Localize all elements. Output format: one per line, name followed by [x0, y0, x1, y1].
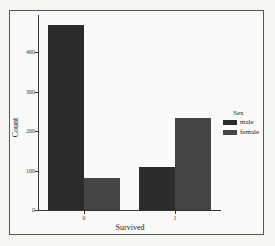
bar-male-survived-0	[48, 25, 84, 210]
x-tick-label: 1	[170, 215, 180, 221]
legend-label-female: female	[240, 128, 259, 136]
y-tick-label: 300	[15, 89, 35, 95]
legend-label-male: male	[240, 118, 254, 126]
bar-male-survived-1	[139, 167, 175, 210]
y-axis-line	[38, 15, 39, 211]
y-tick	[35, 52, 38, 53]
legend-swatch-female	[223, 130, 237, 135]
x-tick-label: 0	[79, 215, 89, 221]
legend-item-female: female	[223, 128, 259, 136]
y-tick-label: 0	[15, 207, 35, 213]
y-tick	[35, 210, 38, 211]
legend-swatch-male	[223, 120, 237, 125]
x-tick	[175, 211, 176, 214]
y-axis-label: Count	[11, 113, 20, 143]
y-tick-label: 100	[15, 168, 35, 174]
y-tick-label: 400	[15, 49, 35, 55]
x-tick	[84, 211, 85, 214]
bar-female-survived-0	[84, 178, 120, 210]
y-tick	[35, 131, 38, 132]
y-tick	[35, 171, 38, 172]
legend-item-male: male	[223, 118, 254, 126]
legend-title: Sex	[233, 109, 244, 117]
bar-female-survived-1	[175, 118, 211, 210]
x-axis-label: Survived	[100, 223, 160, 232]
x-axis-line	[38, 210, 221, 211]
y-tick	[35, 92, 38, 93]
